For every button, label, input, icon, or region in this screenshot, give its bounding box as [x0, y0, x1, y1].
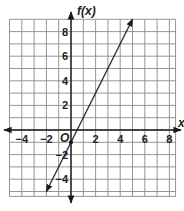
y-tick-label: 2 [62, 99, 68, 111]
coordinate-plane: −4−22468−4−22468 x f(x) O [0, 0, 184, 211]
y-tick-label: 8 [62, 26, 68, 38]
x-axis-label: x [177, 116, 184, 130]
x-tick-label: 8 [166, 133, 172, 145]
x-tick-label: 6 [142, 133, 148, 145]
x-tick-label: 2 [93, 133, 99, 145]
origin-label: O [60, 131, 70, 145]
x-tick-label: −4 [16, 133, 29, 145]
y-intercept-point [69, 140, 73, 144]
y-tick-label: 6 [62, 50, 68, 62]
y-axis-label: f(x) [77, 4, 96, 18]
x-tick-label: −2 [40, 133, 53, 145]
y-tick-label: −2 [55, 149, 68, 161]
y-tick-label: −4 [55, 173, 68, 185]
grid [10, 19, 176, 196]
y-tick-label: 4 [62, 75, 69, 87]
x-tick-label: 4 [117, 133, 124, 145]
